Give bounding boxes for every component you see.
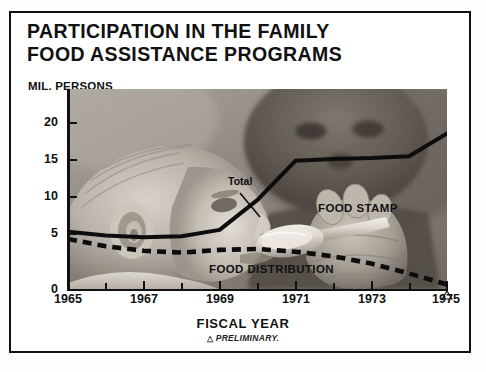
y-tick-15	[68, 159, 77, 162]
footnote-triangle-icon: △	[207, 334, 213, 343]
x-tick-label-1967: 1967	[122, 292, 166, 306]
x-tick-1974	[409, 283, 411, 289]
y-tick-20	[68, 122, 77, 125]
x-tick-label-1965: 1965	[46, 292, 90, 306]
chart-title: PARTICIPATION IN THE FAMILY FOOD ASSISTA…	[27, 20, 447, 66]
x-tick-1965	[67, 281, 69, 289]
x-tick-label-1973: 1973	[350, 292, 394, 306]
x-tick-1972	[333, 283, 335, 289]
x-tick-label-1971: 1971	[274, 292, 318, 306]
footnote-text: PRELIMINARY.	[216, 333, 280, 343]
y-tick-label-15: 15	[30, 152, 58, 166]
y-tick-label-5: 5	[30, 226, 58, 240]
y-tick-label-20: 20	[30, 115, 58, 129]
preliminary-marker-icon	[441, 290, 453, 300]
x-tick-1973	[371, 281, 373, 289]
x-tick-label-1969: 1969	[198, 292, 242, 306]
x-tick-1968	[181, 283, 183, 289]
y-tick-5	[68, 233, 77, 236]
chart-title-line-1: PARTICIPATION IN THE FAMILY	[27, 20, 447, 43]
x-tick-1967	[143, 281, 145, 289]
x-tick-1969	[219, 281, 221, 289]
x-tick-1966	[105, 283, 107, 289]
chart-figure: PARTICIPATION IN THE FAMILY FOOD ASSISTA…	[0, 0, 486, 372]
y-tick-label-10: 10	[30, 189, 58, 203]
background-photograph	[68, 89, 447, 289]
y-axis-line	[67, 89, 70, 291]
series-label-food-distribution: FOOD DISTRIBUTION	[209, 263, 334, 275]
series-label-total: Total	[228, 175, 252, 187]
series-label-food-stamp: FOOD STAMP	[318, 202, 398, 214]
footnote-preliminary: △ PRELIMINARY.	[0, 333, 486, 343]
plot-area: Total FOOD STAMP FOOD DISTRIBUTION	[68, 89, 447, 289]
y-tick-10	[68, 196, 77, 199]
x-tick-1970	[257, 283, 259, 289]
x-axis-caption: FISCAL YEAR	[0, 316, 486, 331]
x-tick-1971	[295, 281, 297, 289]
chart-title-line-2: FOOD ASSISTANCE PROGRAMS	[27, 43, 447, 66]
x-tick-1975	[446, 281, 448, 289]
